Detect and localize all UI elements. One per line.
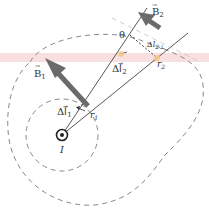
dl2-dot xyxy=(118,51,124,57)
dl1-label: Δl⃗1 xyxy=(57,105,72,119)
current-label: I xyxy=(59,144,65,155)
current-out-of-page-icon xyxy=(57,130,68,141)
B2-vec-mark: → xyxy=(152,1,157,8)
dl2-perp-label: Δl2⊥ xyxy=(146,40,165,50)
radial-line-2 xyxy=(62,33,188,135)
dl2-label: Δl⃗2 xyxy=(112,62,127,76)
ampere-law-diagram: B2 → θ Δl2⊥ Δl⃗2 r2 B1 → Δl⃗1 r1 I xyxy=(0,0,209,212)
r1-label: r1 xyxy=(90,110,98,121)
theta-label: θ xyxy=(119,29,125,40)
B1-vec-mark: → xyxy=(35,62,40,69)
B1-label: B1 xyxy=(34,68,46,81)
radial-line-1 xyxy=(62,8,147,135)
